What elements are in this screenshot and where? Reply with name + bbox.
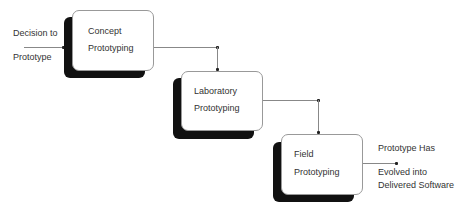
input-label-line1: Decision to: [13, 28, 58, 38]
connector-2-3-horizontal: [263, 100, 319, 101]
laboratory-prototyping-box: Laboratory Prototyping: [181, 71, 263, 131]
output-label-line1: Prototype Has: [378, 143, 435, 153]
output-label-line2: Evolved into: [378, 167, 427, 177]
field-box-line1: Field: [294, 149, 314, 159]
input-label-line2: Prototype: [13, 52, 52, 62]
output-arrowhead: [395, 162, 398, 165]
concept-prototyping-box: Concept Prototyping: [72, 10, 154, 71]
concept-box-line1: Concept: [88, 26, 122, 36]
field-box-line2: Prototyping: [294, 167, 340, 177]
input-arrow: [24, 47, 64, 48]
output-arrow: [363, 163, 397, 164]
connector-2-3-vertical: [318, 100, 319, 133]
output-label-line3: Delivered Software: [378, 180, 454, 190]
connector-1-2-vertical: [217, 47, 218, 70]
laboratory-box-line1: Laboratory: [194, 86, 237, 96]
connector-1-2-horizontal: [154, 47, 218, 48]
laboratory-box-line2: Prototyping: [194, 103, 240, 113]
field-prototyping-box: Field Prototyping: [281, 134, 363, 195]
concept-box-line2: Prototyping: [88, 43, 134, 53]
